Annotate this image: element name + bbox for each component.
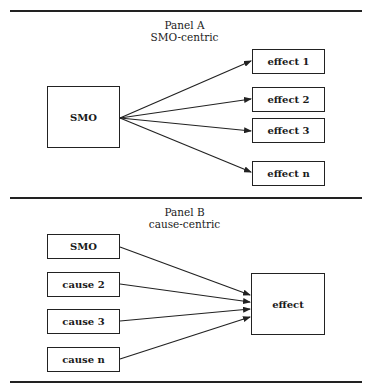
panel-a-source-box: SMO [47,86,120,148]
panel-b-effect-box: effect [251,273,325,335]
panel-b-title: Panel B [0,206,369,218]
panel-b-arrows [120,247,250,359]
middle-rule [10,197,362,199]
panel-a-effect-n-box: effect n [252,161,325,186]
panel-b-source-smo-box: SMO [47,234,120,259]
bottom-rule [10,381,362,383]
panel-a-effect-1-box: effect 1 [252,49,325,74]
panel-b-cause-n-box: cause n [47,347,120,372]
panel-a-effect-2-box: effect 2 [252,87,325,112]
panel-b-cause-2-box: cause 2 [47,272,120,297]
panel-a-arrows [120,61,251,172]
panel-b-subtitle: cause-centric [0,218,369,230]
panel-b-cause-3-box: cause 3 [47,309,120,334]
panel-a-effect-3-box: effect 3 [252,118,325,143]
